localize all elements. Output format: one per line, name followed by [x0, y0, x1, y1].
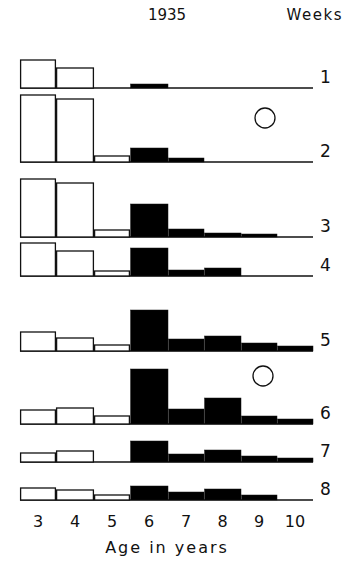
bar-age-4	[57, 99, 94, 162]
bar-age-4	[57, 490, 94, 500]
histogram-chart: 1935 Weeks 12345678 345678910 Age in yea…	[0, 0, 356, 585]
bar-age-7	[169, 339, 204, 351]
x-tick-7: 7	[181, 512, 191, 531]
x-tick-8: 8	[217, 512, 227, 531]
week-label: 6	[320, 403, 331, 423]
bar-age-4	[57, 451, 94, 462]
bar-age-6	[131, 248, 168, 276]
bar-age-4	[57, 251, 94, 276]
bar-age-8	[205, 450, 241, 462]
bar-age-10	[278, 458, 313, 462]
panel-week-7: 7	[20, 441, 331, 462]
bar-age-5	[95, 345, 130, 351]
weeks-label: Weeks	[287, 6, 343, 24]
week-label: 7	[320, 441, 331, 461]
panels: 12345678	[20, 60, 331, 500]
bar-age-3	[21, 332, 56, 351]
bar-age-9	[242, 234, 277, 237]
bar-age-6	[131, 441, 168, 462]
bar-age-8	[205, 336, 241, 351]
panel-week-3: 3	[20, 179, 331, 237]
bar-age-5	[95, 495, 130, 500]
bar-age-9	[242, 343, 277, 351]
bar-age-5	[95, 156, 130, 162]
panel-week-2: 2	[20, 95, 331, 162]
circle-marker	[255, 108, 275, 128]
bar-age-9	[242, 495, 277, 500]
bar-age-8	[205, 268, 241, 276]
bar-age-5	[95, 230, 130, 237]
bar-age-8	[205, 398, 241, 424]
bar-age-9	[242, 456, 277, 462]
week-label: 1	[320, 67, 331, 87]
x-tick-10: 10	[285, 512, 305, 531]
x-tick-5: 5	[107, 512, 117, 531]
week-label: 4	[320, 255, 331, 275]
x-tick-labels: 345678910	[33, 512, 305, 531]
week-label: 3	[320, 216, 331, 236]
bar-age-5	[95, 416, 130, 424]
bar-age-4	[57, 183, 94, 237]
x-tick-3: 3	[33, 512, 43, 531]
bar-age-10	[278, 419, 313, 424]
bar-age-7	[169, 158, 204, 162]
bar-age-6	[131, 204, 168, 237]
x-tick-6: 6	[144, 512, 154, 531]
bar-age-3	[21, 60, 56, 88]
bar-age-3	[21, 453, 56, 462]
chart-title: 1935	[148, 6, 186, 24]
week-label: 2	[320, 141, 331, 161]
bar-age-3	[21, 179, 56, 237]
week-label: 5	[320, 330, 331, 350]
bar-age-7	[169, 454, 204, 462]
bar-age-3	[21, 95, 56, 162]
week-label: 8	[320, 479, 331, 499]
bar-age-7	[169, 492, 204, 500]
bar-age-7	[169, 409, 204, 424]
bar-age-3	[21, 243, 56, 276]
bar-age-4	[57, 68, 94, 88]
bar-age-4	[57, 408, 94, 424]
bar-age-6	[131, 369, 168, 424]
x-tick-9: 9	[254, 512, 264, 531]
panel-week-4: 4	[20, 243, 331, 276]
bar-age-6	[131, 84, 168, 88]
bar-age-6	[131, 486, 168, 500]
panel-week-8: 8	[20, 479, 331, 500]
bar-age-3	[21, 488, 56, 500]
bar-age-8	[205, 233, 241, 237]
bar-age-3	[21, 410, 56, 424]
bar-age-7	[169, 229, 204, 237]
panel-week-6: 6	[20, 369, 331, 424]
bar-age-9	[242, 416, 277, 424]
x-axis-label: Age in years	[105, 538, 229, 557]
x-tick-4: 4	[70, 512, 80, 531]
bar-age-4	[57, 338, 94, 351]
circle-marker	[253, 366, 273, 386]
bar-age-6	[131, 148, 168, 162]
bar-age-8	[205, 489, 241, 500]
bar-age-7	[169, 270, 204, 276]
bar-age-10	[278, 346, 313, 351]
panel-week-5: 5	[20, 310, 331, 351]
bar-age-6	[131, 310, 168, 351]
bar-age-5	[95, 271, 130, 276]
panel-week-1: 1	[20, 60, 331, 88]
